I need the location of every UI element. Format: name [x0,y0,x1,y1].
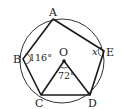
label-o: O [59,46,68,59]
angle-o-value: 72° [58,70,75,81]
center-point [62,59,66,63]
label-e: E [106,46,114,59]
label-c: C [35,97,43,109]
label-d: D [88,97,97,109]
angle-b-value: 116° [29,52,52,63]
label-b: B [13,53,21,66]
label-a: A [48,6,58,19]
geometry-diagram: A B C D E O 116° 72° x [0,0,124,109]
angle-arc-o [60,67,68,69]
angle-e-variable: x [92,46,98,57]
